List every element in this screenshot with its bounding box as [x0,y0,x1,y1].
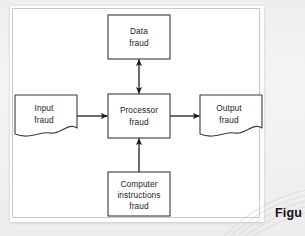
node-output-fraud-line-1: fraud [219,115,239,125]
node-input-fraud[interactable]: Input fraud [15,95,77,136]
node-output-fraud-line-0: Output [216,103,242,113]
fraud-flowchart: Data fraud Input fraud Processor fraud O… [10,6,264,222]
node-processor-fraud-line-1: fraud [129,117,149,127]
node-computer-instructions-fraud-line-2: fraud [129,201,149,211]
node-computer-instructions-fraud[interactable]: Computer instructions fraud [108,172,170,216]
node-input-fraud-line-0: Input [35,103,55,113]
node-processor-fraud-line-0: Processor [120,105,158,115]
figure-caption: Figu [275,206,305,220]
page-root: Data fraud Input fraud Processor fraud O… [0,0,305,236]
node-data-fraud-line-0: Data [130,26,148,36]
node-computer-instructions-fraud-line-0: Computer [120,179,157,189]
node-data-fraud[interactable]: Data fraud [108,15,170,59]
node-output-fraud[interactable]: Output fraud [200,95,262,136]
node-input-fraud-line-1: fraud [34,115,54,125]
node-computer-instructions-fraud-line-1: instructions [117,190,160,200]
scanned-page-panel: Data fraud Input fraud Processor fraud O… [10,6,264,222]
node-data-fraud-line-1: fraud [129,38,149,48]
node-processor-fraud[interactable]: Processor fraud [108,94,170,138]
